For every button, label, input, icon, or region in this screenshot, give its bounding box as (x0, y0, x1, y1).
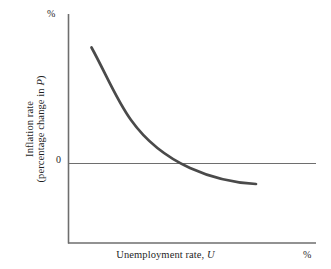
y-axis-title-line1: Inflation rate (24, 49, 35, 209)
y-axis-title-line2-prefix: (percentage change in (35, 86, 46, 183)
y-axis-zero-tick-label: 0 (56, 155, 61, 166)
x-axis-title: Unemployment rate, U (0, 249, 331, 260)
phillips-curve-figure: % 0 % Unemployment rate, U Inflation rat… (0, 0, 331, 269)
x-axis-title-text: Unemployment rate, (116, 249, 207, 260)
x-axis-title-variable: U (207, 249, 215, 260)
y-axis-unit-label: % (47, 9, 55, 20)
y-axis-title: Inflation rate(percentage change in P) (24, 49, 54, 209)
y-axis-title-line2: (percentage change in P) (35, 49, 46, 209)
y-axis-title-variable: P (35, 79, 46, 86)
y-axis-title-line2-suffix: ) (35, 75, 46, 79)
